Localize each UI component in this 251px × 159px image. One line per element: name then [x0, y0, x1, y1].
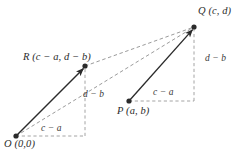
point-dot-Q [191, 24, 196, 29]
point-label-Q: Q (c, d) [198, 6, 231, 17]
vector-parallelogram-figure: Q (c, d) R (c − a, d − b) P (a, b) O (0,… [0, 0, 251, 159]
point-label-P: P (a, b) [117, 106, 149, 117]
dashed-segment-O-P [16, 27, 194, 136]
segment-label-d-minus-b-middle: d − b [83, 90, 104, 100]
point-label-R: R (c − a, d − b) [23, 52, 91, 63]
point-dot-P [126, 98, 131, 103]
segment-label-c-minus-a-upper: c − a [153, 88, 174, 98]
segment-label-c-minus-a-lower: c − a [41, 124, 62, 134]
point-label-O: O (0,0) [4, 139, 35, 150]
point-dot-R [82, 63, 87, 68]
segment-label-d-minus-b-right: d − b [205, 54, 226, 64]
figure-canvas [0, 0, 251, 159]
